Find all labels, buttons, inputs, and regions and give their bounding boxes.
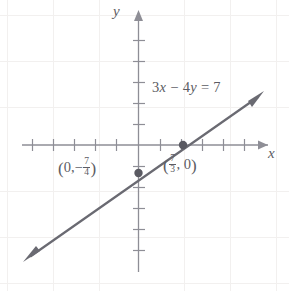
x-axis-label: x <box>268 146 275 161</box>
xint-close-paren: ) <box>191 156 197 175</box>
yint-fraction: 74 <box>83 157 90 178</box>
plot-area <box>0 0 289 291</box>
xint-comma: , <box>176 156 180 172</box>
yint-close-paren: ) <box>90 159 96 178</box>
coordinate-plane-figure: y x 3x − 4y = 7 (0,−74) (73, 0) <box>0 0 289 291</box>
xint-numerator: 7 <box>169 154 176 164</box>
xint-fraction: 73 <box>169 154 176 175</box>
yint-x-value: 0, <box>64 159 75 175</box>
line-arrowhead-lower-left <box>23 246 40 262</box>
point-x-intercept <box>179 141 187 149</box>
yint-denominator: 4 <box>83 167 90 178</box>
equation-coef-x: 3 <box>152 79 160 95</box>
line-arrowhead-upper-right <box>248 91 264 107</box>
yint-sign: − <box>75 159 83 175</box>
equation-var-x: x <box>160 79 167 95</box>
equation-operator: − <box>170 79 178 95</box>
y-intercept-coordinate-label: (0,−74) <box>58 158 96 179</box>
xint-denominator: 3 <box>169 164 176 175</box>
equation-equals: = <box>201 79 209 95</box>
xint-y-value: 0 <box>184 156 191 172</box>
point-y-intercept <box>134 169 142 177</box>
xint-open-paren: ( <box>163 156 169 175</box>
yint-numerator: 7 <box>83 157 90 167</box>
equation-var-y: y <box>190 79 197 95</box>
y-axis-label: y <box>113 4 120 19</box>
equation-constant: 7 <box>213 79 221 95</box>
x-axis-arrowhead <box>258 141 268 150</box>
x-intercept-coordinate-label: (73, 0) <box>163 155 197 176</box>
equation-annotation: 3x − 4y = 7 <box>152 80 221 95</box>
